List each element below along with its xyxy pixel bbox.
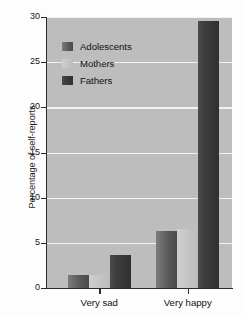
legend-item-label: Adolescents	[80, 41, 132, 52]
y-axis-tick-mark	[41, 198, 46, 199]
bar-fathers-very-happy	[198, 21, 219, 288]
legend-item-label: Mothers	[80, 58, 114, 69]
y-axis-tick-mark	[41, 243, 46, 244]
y-axis-tick-label: 20	[24, 102, 40, 111]
x-axis-line	[46, 288, 233, 289]
bar-adolescents-very-sad	[68, 275, 89, 288]
y-axis-tick-mark	[41, 62, 46, 63]
chart-legend: AdolescentsMothersFathers	[62, 38, 172, 89]
bar-mothers-very-sad	[89, 275, 110, 288]
legend-item-fathers[interactable]: Fathers	[62, 72, 172, 88]
y-axis-tick-label: 30	[24, 12, 40, 21]
x-axis-tick-label: Very sad	[59, 297, 139, 308]
legend-item-mothers[interactable]: Mothers	[62, 55, 172, 71]
y-axis-tick-mark	[41, 107, 46, 108]
x-axis-tick-mark	[99, 289, 100, 294]
bar-chart-figure: Percentage of self-reports 051015202530 …	[0, 0, 245, 316]
y-axis-tick-label: 15	[24, 148, 40, 157]
y-axis-tick-labels: 051015202530	[22, 0, 40, 316]
legend-swatch-icon	[62, 59, 73, 68]
y-axis-tick-label: 0	[24, 283, 40, 292]
gridline	[47, 17, 232, 18]
legend-swatch-icon	[62, 76, 73, 85]
bar-adolescents-very-happy	[156, 231, 177, 288]
y-axis-tick-mark	[41, 17, 46, 18]
y-axis-tick-label: 25	[24, 57, 40, 66]
x-axis-tick-mark	[188, 289, 189, 294]
y-axis-tick-label: 10	[24, 193, 40, 202]
y-axis-tick-mark	[41, 153, 46, 154]
legend-item-label: Fathers	[80, 75, 112, 86]
legend-item-adolescents[interactable]: Adolescents	[62, 38, 172, 54]
x-axis-tick-label: Very happy	[148, 297, 228, 308]
y-axis-tick-label: 5	[24, 238, 40, 247]
bar-fathers-very-sad	[110, 255, 131, 288]
y-axis-tick-mark	[41, 288, 46, 289]
legend-swatch-icon	[62, 42, 73, 51]
bar-mothers-very-happy	[177, 229, 198, 288]
